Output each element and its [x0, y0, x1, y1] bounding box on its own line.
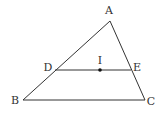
point-i-dot [98, 68, 102, 72]
label-b: B [11, 94, 19, 107]
labels: A B C D E I [11, 4, 155, 108]
label-a: A [104, 4, 114, 17]
label-e: E [133, 61, 141, 74]
label-c: C [147, 95, 155, 108]
triangle-diagram: A B C D E I [0, 0, 167, 116]
segments [23, 21, 145, 100]
label-d: D [44, 61, 53, 74]
diagram-svg: A B C D E I [0, 0, 167, 116]
label-i: I [98, 54, 102, 67]
